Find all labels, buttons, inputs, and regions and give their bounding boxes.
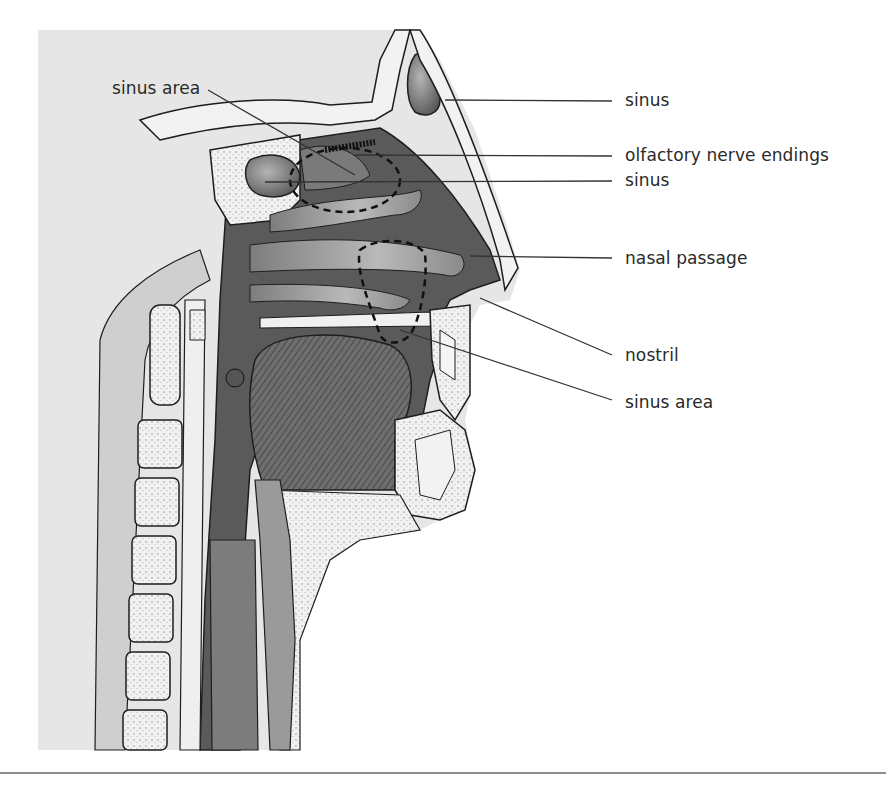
label-sinus-sphenoid: sinus: [625, 172, 670, 189]
label-sinus-area-top: sinus area: [112, 80, 200, 97]
label-olfactory-nerve-endings: olfactory nerve endings: [625, 147, 829, 164]
label-nostril: nostril: [625, 347, 679, 364]
anatomy-illustration: [0, 0, 886, 788]
label-sinus-area-bottom: sinus area: [625, 394, 713, 411]
bottom-divider-rule: [0, 772, 886, 774]
label-sinus-frontal: sinus: [625, 92, 670, 109]
tongue: [250, 335, 411, 490]
label-nasal-passage: nasal passage: [625, 250, 747, 267]
sphenoid-sinus: [246, 155, 300, 197]
